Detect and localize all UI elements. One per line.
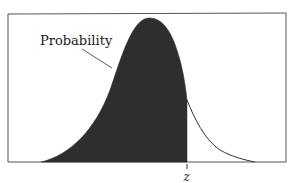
density-curve-right-tail bbox=[187, 100, 255, 162]
label-leader-line bbox=[82, 49, 112, 68]
normal-curve-diagram: Probability z bbox=[0, 0, 306, 183]
z-axis-label: z bbox=[183, 170, 191, 183]
probability-label: Probability bbox=[40, 33, 113, 48]
